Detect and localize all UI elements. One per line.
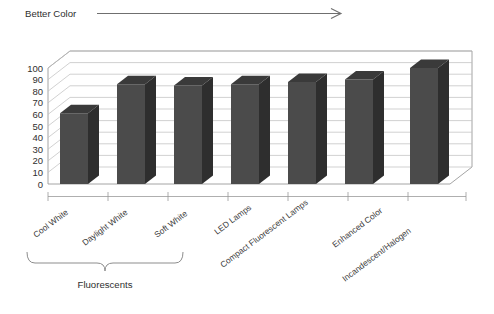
bar-soft-white [174,77,213,184]
category-label-compact-fluorescent-lamps: Compact Fluorescent Lamps [218,197,310,269]
y-tick-label: 80 [32,86,43,97]
bar-incandescent-halogen [410,60,449,185]
y-tick-label: 50 [32,121,43,132]
bar-enhanced-color [345,71,384,184]
y-tick-label: 10 [32,167,43,178]
category-label-led-lamps: LED Lamps [212,202,253,236]
y-tick-label: 20 [32,155,43,166]
right-arrow-icon [97,9,341,19]
better-color-label: Better Color [25,8,77,19]
x-axis [48,192,466,201]
y-tick-label: 100 [27,63,43,74]
bar-compact-fluorescent-lamps [288,73,327,184]
y-tick-label: 60 [32,109,43,120]
category-label-soft-white: Soft White [152,208,189,239]
bar-cool-white [60,105,99,184]
y-axis: 100 90 80 70 60 50 40 30 20 10 0 [27,63,43,190]
bar-led-lamps [231,76,270,184]
y-tick-label: 0 [38,179,43,190]
bar-chart-3d: Better Color [0,0,494,314]
y-tick-label: 40 [32,132,43,143]
x-axis-category-labels: Cool White Daylight White Soft White LED… [31,197,413,283]
y-tick-label: 30 [32,144,43,155]
fluorescents-group-label: Fluorescents [78,279,133,290]
category-label-daylight-white: Daylight White [80,207,129,248]
bar-daylight-white [117,76,156,184]
chart-canvas: Better Color [0,0,494,314]
fluorescents-bracket [27,252,183,271]
y-tick-label: 90 [32,74,43,85]
y-tick-label: 70 [32,97,43,108]
category-label-cool-white: Cool White [31,207,70,240]
category-label-enhanced-color: Enhanced Color [330,205,384,249]
